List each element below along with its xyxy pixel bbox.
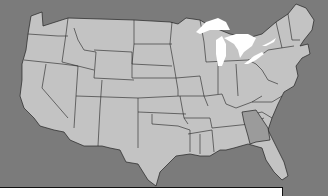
us-map <box>0 0 328 196</box>
us-landmass <box>20 4 314 186</box>
map-stage <box>0 0 328 196</box>
answer-box <box>0 187 283 196</box>
